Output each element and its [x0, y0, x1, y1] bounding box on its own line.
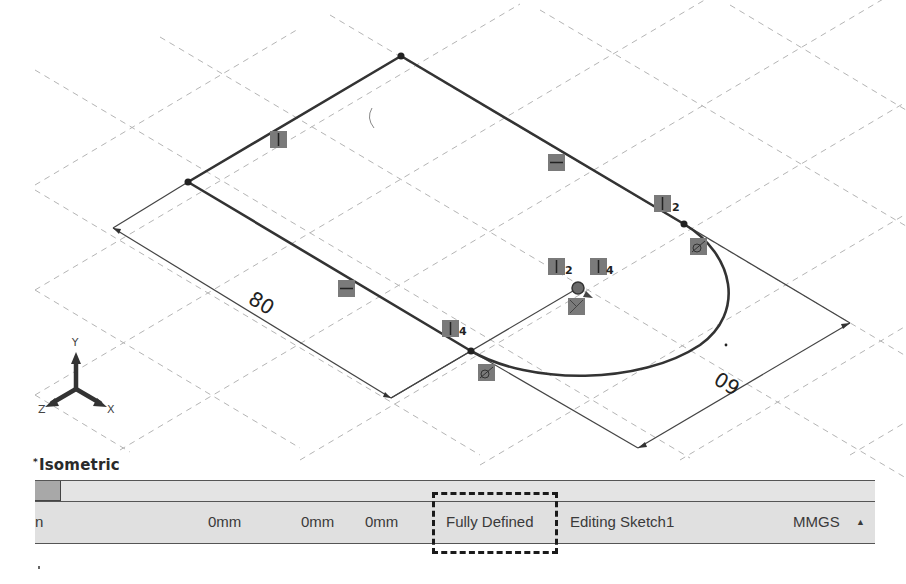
- vertical-relation-icon[interactable]: 2: [654, 195, 680, 214]
- vertical-relation-icon[interactable]: 4: [590, 258, 614, 277]
- horizontal-relation-icon[interactable]: [548, 154, 565, 171]
- view-orientation-label: *Isometric: [33, 456, 120, 474]
- relation-count: 2: [565, 264, 573, 277]
- tangent-relation-icon[interactable]: [478, 364, 495, 381]
- triad-z-label: Z: [38, 403, 46, 416]
- horizontal-relation-icon[interactable]: [338, 280, 355, 297]
- grid: [35, 0, 906, 478]
- relation-badges[interactable]: 2 4: [270, 131, 707, 381]
- status-truncated-text: n: [35, 513, 43, 530]
- unit-system-menu-arrow-icon[interactable]: ▲: [856, 517, 865, 527]
- arc-center-point[interactable]: [572, 282, 584, 294]
- tangent-relation-icon[interactable]: [690, 238, 707, 255]
- relation-count: 4: [606, 264, 614, 277]
- editing-sketch-status: Editing Sketch1: [570, 513, 674, 530]
- vertical-relation-icon[interactable]: 4: [442, 320, 467, 338]
- reference-triad: Y Z X: [38, 336, 115, 416]
- dimension-60-label[interactable]: 60: [710, 366, 744, 400]
- vertical-relation-icon[interactable]: [270, 131, 287, 148]
- dimension-80-label[interactable]: 80: [245, 286, 279, 320]
- stray-point: [725, 344, 728, 347]
- fully-defined-highlight: [432, 492, 558, 554]
- triad-x-label: X: [107, 403, 115, 416]
- dimension-lines: [113, 182, 850, 448]
- status-z-coordinate: 0mm: [365, 513, 398, 530]
- stray-mark: [38, 566, 40, 569]
- triad-y-label: Y: [71, 336, 79, 349]
- status-y-coordinate: 0mm: [301, 513, 334, 530]
- dimension-arrows: [113, 228, 850, 448]
- view-orientation-text: Isometric: [39, 456, 120, 474]
- vertical-relation-icon[interactable]: 2: [548, 258, 573, 277]
- unit-system-button[interactable]: MMGS: [793, 513, 840, 530]
- sketch-line-top-right[interactable]: [401, 56, 684, 224]
- construction-mark: [369, 108, 374, 128]
- relation-count: 4: [459, 325, 467, 338]
- coincident-relation-icon[interactable]: [568, 298, 585, 315]
- relation-count: 2: [672, 201, 680, 214]
- scrollbar-thumb[interactable]: [35, 481, 61, 501]
- sketch-line-top-left[interactable]: [188, 56, 401, 182]
- status-x-coordinate: 0mm: [208, 513, 241, 530]
